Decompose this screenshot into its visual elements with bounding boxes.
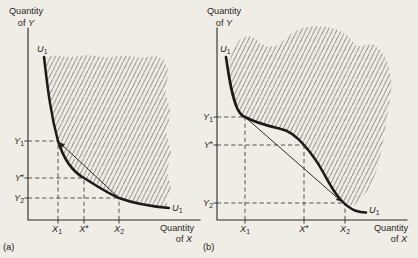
panel-b-hatched-preferred-region xyxy=(229,26,392,207)
panel-b-curve-label-right: U1 xyxy=(369,205,380,216)
panel-b-ystar-label: Y* xyxy=(204,140,214,151)
panel-b-curve-label-top: U1 xyxy=(220,44,231,55)
panel-a-caption: (a) xyxy=(3,241,14,252)
panel-a-y1-label: Y1 xyxy=(14,136,24,147)
panel-a-ystar-label: Y* xyxy=(15,173,25,184)
panel-a-hatched-preferred-region xyxy=(44,55,171,208)
panel-a-xstar-label: X* xyxy=(78,224,89,235)
panel-b-caption: (b) xyxy=(203,241,214,252)
panel-b-x-axis-title-line2: of X xyxy=(391,234,408,244)
panel-a-x1-label: X1 xyxy=(51,224,62,235)
panel-a-curve-label-right: U1 xyxy=(172,203,183,214)
panel-b-y-axis-title-line2: of Y xyxy=(216,18,233,28)
panel-b-y-axis-title-line1: Quantity xyxy=(207,6,242,16)
panel-a-x-axis-title-line2: of X xyxy=(176,234,193,244)
panel-b-x1-label: X1 xyxy=(239,224,250,235)
panel-a-y-axis-title-line2: of Y xyxy=(18,18,35,28)
panel-a-y2-label: Y2 xyxy=(14,193,24,204)
panel-a-curve-label-top: U1 xyxy=(37,44,48,55)
panel-b-x2-label: X2 xyxy=(339,224,350,235)
scanned-figure-page: Quantity of Y Quantity of X U1 U1 Y1 Y* … xyxy=(0,0,418,258)
panel-a-x2-label: X2 xyxy=(113,224,124,235)
panel-b-x-axis-title-line1: Quantity xyxy=(374,223,409,233)
panel-a: Quantity of Y Quantity of X U1 U1 Y1 Y* … xyxy=(3,6,200,252)
indifference-curves-figure: Quantity of Y Quantity of X U1 U1 Y1 Y* … xyxy=(0,0,418,258)
panel-b-y1-label: Y1 xyxy=(203,112,213,123)
panel-a-y-axis-title-line1: Quantity xyxy=(9,6,44,16)
panel-b-y2-label: Y2 xyxy=(203,198,213,209)
panel-a-x-axis-title-line1: Quantity xyxy=(160,223,195,233)
panel-b-xstar-label: X* xyxy=(298,224,309,235)
panel-b: Quantity of Y Quantity of X U1 U1 Y1 Y* … xyxy=(203,6,409,252)
